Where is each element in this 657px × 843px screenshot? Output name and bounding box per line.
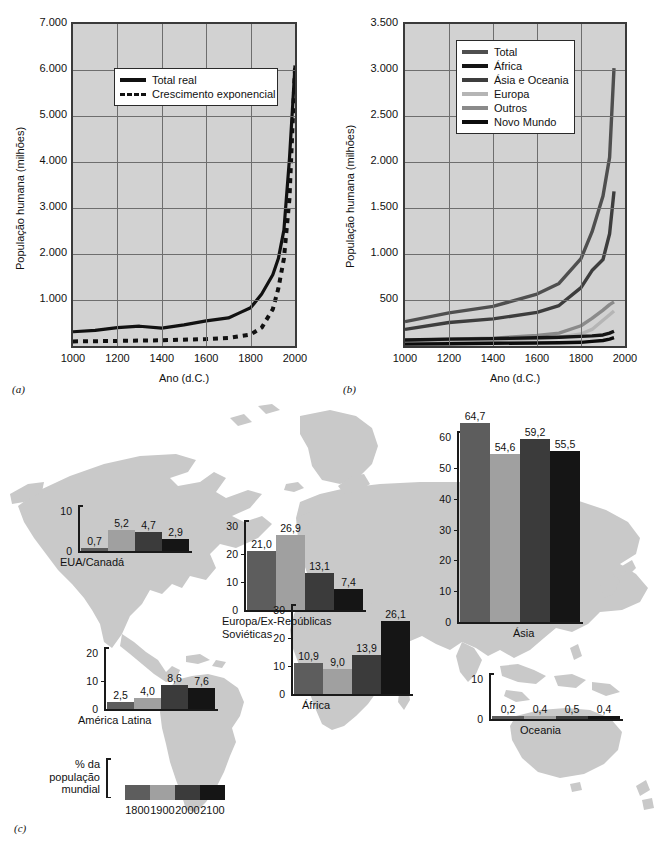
color-key-swatch <box>175 785 200 800</box>
panel-b-x-tick: 1600 <box>515 353 559 364</box>
panel-a-gridline-horizontal <box>73 208 295 209</box>
mini-chart-y-tick: 0 <box>459 714 483 725</box>
panel-b-y-tick: 3.000 <box>335 63 398 74</box>
panel-b-x-tick: 1800 <box>559 353 603 364</box>
color-key-caption-line1: % da <box>24 758 100 771</box>
legend-line-swatch-icon <box>462 92 488 96</box>
panel-b-y-tick: 2.500 <box>335 109 398 120</box>
panel-a-x-axis-title: Ano (d.C.) <box>124 372 244 384</box>
panel-a-x-tick: 2000 <box>273 353 317 364</box>
color-key-caption: % dapopulaçãomundial <box>24 758 100 796</box>
panel-b-legend-row: Outros <box>462 101 567 115</box>
mini-chart-bar-value: 0,4 <box>524 704 556 715</box>
panel-a-gridline-horizontal <box>73 162 295 163</box>
panel-b-legend-row: Novo Mundo <box>462 115 567 129</box>
panel-b-gridline-horizontal <box>405 208 625 209</box>
line-chart-panel-b: População humana (milhões) 3.5003.0002.5… <box>330 0 657 398</box>
panel-a-gridline-horizontal <box>73 116 295 117</box>
color-key-legend: % dapopulaçãomundial1800190020002100 <box>24 758 239 818</box>
color-key-swatch <box>150 785 175 800</box>
panel-a-y-tick-labels: 7.0006.0005.0004.0003.0002.0001.000 <box>0 0 67 398</box>
panel-c-figure-label: (c) <box>14 822 26 834</box>
color-key-bracket-cap <box>106 758 111 760</box>
panel-b-gridline-horizontal <box>405 300 625 301</box>
panel-b-gridline-horizontal <box>405 254 625 255</box>
panel-a-x-tick-labels: 100012001400160018002000 <box>0 353 330 367</box>
panel-b-gridline-vertical <box>581 24 582 346</box>
legend-line-swatch-icon <box>120 78 146 82</box>
mini-chart-bar <box>492 716 524 719</box>
color-key-swatch <box>200 785 225 800</box>
panel-b-series-ásia-e-oceania <box>405 191 614 329</box>
panel-b-y-tick-labels: 3.5003.0002.5002.0001.5001.000500 <box>330 0 398 398</box>
panel-b-legend-label: Total <box>494 47 517 58</box>
legend-line-swatch-icon <box>462 106 488 110</box>
panel-b-legend-label: Europa <box>494 89 529 100</box>
panel-b-legend-label: Novo Mundo <box>494 117 556 128</box>
world-map-panel-c: 0100,75,24,72,9EUA/Canadá010202,54,08,67… <box>0 398 657 843</box>
panel-b-gridline-vertical <box>449 24 450 346</box>
panel-a-y-tick: 5.000 <box>5 109 67 120</box>
panel-b-x-axis-title: Ano (d.C.) <box>455 372 575 384</box>
color-key-year-label: 2100 <box>198 805 227 816</box>
panel-b-y-tick: 1.000 <box>335 247 398 258</box>
color-key-caption-line2: população <box>24 771 100 784</box>
panel-b-y-tick: 1.500 <box>335 201 398 212</box>
panel-b-legend-row: Ásia e Oceania <box>462 73 567 87</box>
panel-b-legend-row: Total <box>462 45 567 59</box>
panel-b-x-tick: 1000 <box>383 353 427 364</box>
line-chart-panel-a: População humana (milhões) 7.0006.0005.0… <box>0 0 330 398</box>
color-key-bracket <box>106 758 108 798</box>
panel-a-gridline-horizontal <box>73 254 295 255</box>
panel-a-y-tick: 4.000 <box>5 155 67 166</box>
panel-b-gridline-horizontal <box>405 162 625 163</box>
legend-line-swatch-icon <box>462 78 488 82</box>
panel-b-legend: TotalÁfricaÁsia e OceaniaEuropaOutrosNov… <box>456 40 575 134</box>
panel-a-y-tick: 2.000 <box>5 247 67 258</box>
panel-a-x-tick: 1200 <box>95 353 139 364</box>
panel-a-x-tick: 1800 <box>229 353 273 364</box>
panel-a-x-tick: 1000 <box>51 353 95 364</box>
mini-chart-y-tick: 10 <box>459 674 483 685</box>
mini-chart-bar-value: 0,5 <box>556 704 588 715</box>
panel-a-x-tick: 1400 <box>140 353 184 364</box>
mini-chart-axis-cap <box>489 673 494 675</box>
panel-b-legend-row: África <box>462 59 567 73</box>
mini-chart-bar <box>524 716 556 719</box>
panel-a-gridline-horizontal <box>73 300 295 301</box>
panel-b-y-tick: 3.500 <box>335 17 398 28</box>
panel-a-legend-row: Total real <box>120 73 270 87</box>
legend-line-swatch-icon <box>120 93 146 96</box>
panel-b-y-tick: 2.000 <box>335 155 398 166</box>
panel-a-legend: Total realCrescimento exponencial <box>114 68 278 106</box>
mini-chart-bar-value: 0,2 <box>492 704 524 715</box>
color-key-bracket-cap <box>106 797 111 799</box>
panel-a-y-tick: 3.000 <box>5 201 67 212</box>
color-key-swatch-strip <box>125 785 225 800</box>
mini-chart-bar <box>588 716 620 719</box>
legend-line-swatch-icon <box>462 64 488 68</box>
panel-b-x-tick: 2000 <box>603 353 647 364</box>
legend-line-swatch-icon <box>462 50 488 54</box>
legend-line-swatch-icon <box>462 120 488 124</box>
panel-b-figure-label: (b) <box>343 383 356 395</box>
mini-chart-region-label: Oceania <box>520 724 561 737</box>
panel-b-legend-row: Europa <box>462 87 567 101</box>
mini-chart-y-axis <box>489 673 491 719</box>
panel-a-y-tick: 6.000 <box>5 63 67 74</box>
panel-a-x-tick: 1600 <box>184 353 228 364</box>
panel-b-legend-label: Outros <box>494 103 527 114</box>
panel-b-x-tick: 1200 <box>427 353 471 364</box>
color-key-caption-line3: mundial <box>24 783 100 796</box>
panel-b-legend-label: África <box>494 61 522 72</box>
mini-chart-baseline <box>489 719 623 721</box>
panel-a-legend-label: Total real <box>152 75 197 86</box>
mini-chart-bar <box>556 716 588 719</box>
panel-a-y-tick: 7.000 <box>5 17 67 28</box>
panel-b-legend-label: Ásia e Oceania <box>494 75 569 86</box>
color-key-swatch <box>125 785 150 800</box>
panel-a-y-tick: 1.000 <box>5 293 67 304</box>
panel-b-x-tick: 1400 <box>471 353 515 364</box>
panel-a-legend-label: Crescimento exponencial <box>152 89 276 100</box>
panel-a-figure-label: (a) <box>12 383 25 395</box>
